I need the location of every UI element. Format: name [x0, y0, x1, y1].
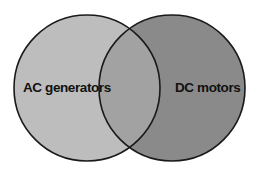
label-ac-generators: AC generators	[23, 80, 111, 95]
label-dc-motors: DC motors	[175, 80, 240, 95]
venn-diagram: AC generators DC motors	[0, 0, 262, 173]
